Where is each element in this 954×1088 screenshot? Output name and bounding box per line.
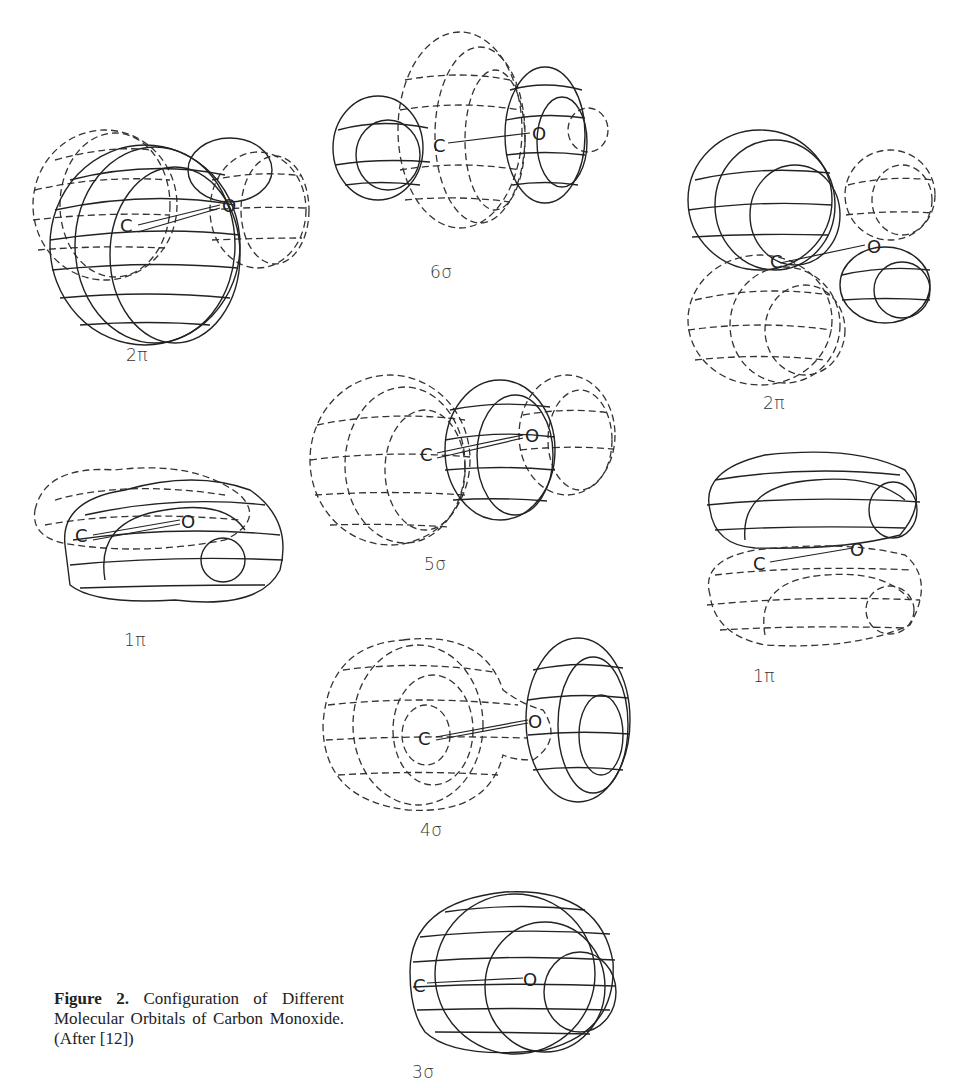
orbital-label-1pi-left: 1π xyxy=(124,630,146,650)
orbital-1pi-right: C O xyxy=(695,440,930,665)
orbital-5sigma: C O xyxy=(305,365,625,550)
orbital-2pi-right: C O xyxy=(680,125,950,385)
atom-c: C xyxy=(413,975,426,996)
atom-o: O xyxy=(867,236,881,257)
atom-o: O xyxy=(181,511,195,532)
atom-c: C xyxy=(420,444,433,465)
cropped-page-header xyxy=(730,0,954,6)
orbital-3sigma: C O xyxy=(405,882,620,1057)
atom-o: O xyxy=(532,123,546,144)
orbital-6sigma-drawing: C O xyxy=(330,30,620,255)
orbital-2pi-left: C O xyxy=(20,120,320,350)
orbital-4sigma-drawing: C O xyxy=(318,610,638,820)
orbital-1pi-right-drawing: C O xyxy=(695,440,930,665)
orbital-3sigma-drawing: C O xyxy=(405,882,620,1057)
orbital-label-4sigma: 4σ xyxy=(420,820,443,840)
orbital-label-2pi-left: 2π xyxy=(126,345,148,365)
orbital-label-3sigma: 3σ xyxy=(412,1062,435,1082)
orbital-1pi-left-drawing: C O xyxy=(25,440,300,615)
atom-c: C xyxy=(433,135,446,156)
atom-o: O xyxy=(222,195,236,216)
atom-c: C xyxy=(75,525,88,546)
orbital-6sigma: C O xyxy=(330,30,620,255)
atom-o: O xyxy=(525,425,539,446)
figure-caption-label: Figure 2. xyxy=(54,989,129,1008)
figure-caption: Figure 2. Configuration of Different Mol… xyxy=(54,989,344,1049)
orbital-label-2pi-right: 2π xyxy=(763,393,785,413)
orbital-label-5sigma: 5σ xyxy=(424,554,447,574)
atom-c: C xyxy=(753,553,766,574)
orbital-4sigma: C O xyxy=(318,610,638,820)
orbital-2pi-right-drawing: C O xyxy=(680,125,950,385)
orbital-1pi-left: C O xyxy=(25,440,300,615)
atom-o: O xyxy=(850,539,864,560)
orbital-2pi-left-drawing: C O xyxy=(20,120,320,350)
orbital-label-1pi-right: 1π xyxy=(753,666,775,686)
atom-o: O xyxy=(523,969,537,990)
atom-c: C xyxy=(770,251,783,272)
atom-o: O xyxy=(528,711,542,732)
orbital-label-6sigma: 6σ xyxy=(430,262,453,282)
atom-c: C xyxy=(120,215,133,236)
orbital-5sigma-drawing: C O xyxy=(305,365,625,550)
atom-c: C xyxy=(418,728,431,749)
